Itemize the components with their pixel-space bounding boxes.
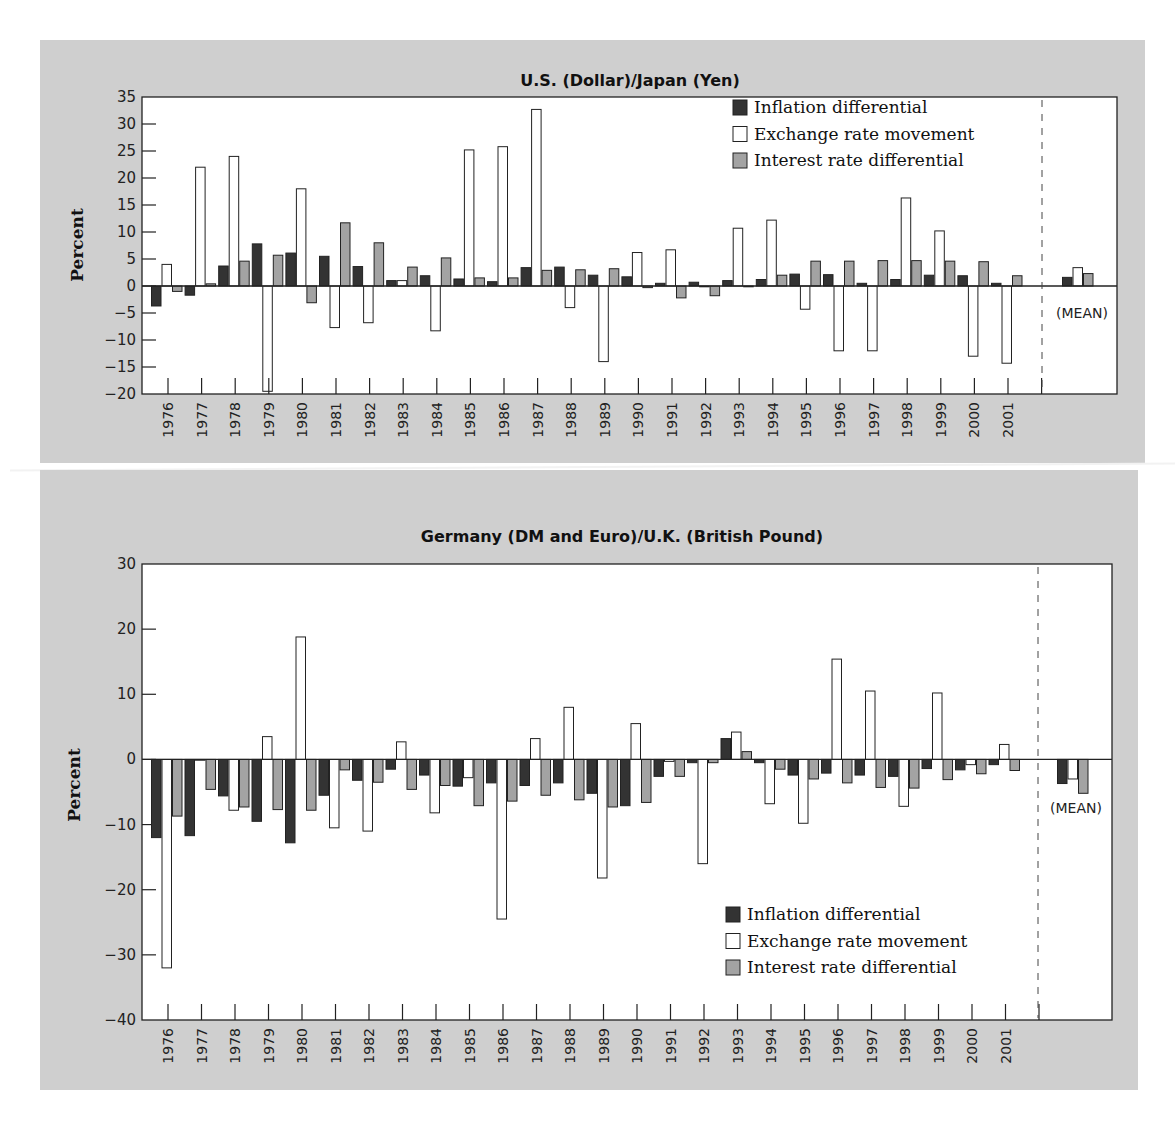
x-tick-label: 1984: [428, 1028, 444, 1064]
x-tick-label: 1996: [830, 1028, 846, 1064]
exchange-bar: [1073, 268, 1083, 286]
y-tick-label: 0: [126, 750, 136, 768]
exchange-bar: [464, 150, 474, 286]
interest-bar: [1084, 274, 1094, 286]
inflation-bar: [286, 253, 296, 286]
inflation-bar: [622, 277, 632, 286]
y-tick-label: −20: [104, 385, 136, 403]
exchange-bar: [698, 759, 708, 863]
inflation-bar: [286, 759, 296, 842]
exchange-bar: [229, 156, 239, 286]
x-tick-label: 1994: [765, 402, 781, 438]
chart-us-japan: U.S. (Dollar)/Japan (Yen) 35302520151050…: [67, 71, 1117, 438]
inflation-bar: [387, 281, 397, 286]
inflation-bar: [219, 759, 229, 795]
inflation-bar: [654, 759, 664, 776]
x-tick-label: 1983: [395, 1028, 411, 1064]
exchange-bar: [296, 637, 306, 759]
x-tick-label: 2000: [964, 1028, 980, 1064]
x-tick-label: 1988: [563, 402, 579, 438]
interest-bar: [273, 255, 283, 286]
inflation-bar: [723, 281, 733, 286]
exchange-bar: [565, 286, 575, 308]
inflation-bar: [924, 275, 934, 286]
inflation-bar: [790, 274, 800, 286]
exchange-bar: [632, 253, 642, 286]
x-tick-label: 1983: [395, 402, 411, 438]
exchange-legend-label: Exchange rate movement: [747, 931, 968, 951]
inflation-bar: [152, 759, 162, 837]
inflation-legend-swatch: [726, 907, 740, 922]
inflation-bar: [252, 759, 262, 821]
interest-bar: [675, 759, 685, 776]
x-tick-label: 1987: [530, 402, 546, 438]
inflation-bar: [386, 759, 396, 769]
chart-title: U.S. (Dollar)/Japan (Yen): [520, 71, 740, 90]
inflation-bar: [152, 286, 162, 306]
x-tick-label: 1977: [194, 402, 210, 438]
y-axis-label: Percent: [67, 208, 87, 282]
interest-bar: [912, 261, 922, 286]
inflation-bar: [353, 267, 363, 286]
exchange-bar: [330, 286, 340, 328]
interest-bar: [374, 759, 384, 782]
inflation-bar: [487, 759, 497, 782]
interest-legend-swatch: [726, 960, 740, 975]
y-tick-label: 15: [117, 196, 136, 214]
x-tick-label: 1976: [160, 1028, 176, 1064]
exchange-bar: [564, 707, 574, 759]
inflation-legend-swatch: [733, 100, 747, 115]
interest-bar: [642, 759, 652, 802]
x-tick-label: 1997: [866, 402, 882, 438]
x-tick-label: 1981: [328, 402, 344, 438]
x-tick-label: 2001: [998, 1028, 1014, 1064]
interest-bar: [509, 278, 519, 286]
mean-label: (MEAN): [1050, 800, 1102, 816]
interest-bar: [1079, 759, 1089, 793]
x-tick-label: 1985: [462, 1028, 478, 1064]
exchange-bar: [330, 759, 340, 827]
interest-bar: [441, 759, 451, 785]
inflation-bar: [588, 275, 598, 286]
x-tick-label: 1998: [897, 1028, 913, 1064]
y-tick-label: −10: [104, 331, 136, 349]
x-tick-label: 1992: [698, 402, 714, 438]
y-tick-label: −10: [104, 816, 136, 834]
exchange-bar: [196, 167, 206, 286]
inflation-bar: [922, 759, 932, 768]
inflation-bar: [1058, 759, 1068, 783]
inflation-bar: [185, 286, 195, 295]
inflation-bar: [1063, 277, 1073, 286]
x-tick-label: 1997: [864, 1028, 880, 1064]
exchange-bar: [397, 742, 407, 760]
x-tick-label: 1982: [362, 402, 378, 438]
inflation-bar: [958, 276, 968, 286]
chart-title: Germany (DM and Euro)/U.K. (British Poun…: [421, 527, 823, 546]
y-tick-label: −20: [104, 881, 136, 899]
exchange-bar: [162, 264, 172, 286]
x-tick-label: 1978: [227, 1028, 243, 1064]
interest-bar: [845, 261, 855, 286]
y-tick-label: 0: [126, 277, 136, 295]
x-tick-label: 1980: [294, 402, 310, 438]
inflation-bar: [420, 276, 430, 286]
exchange-bar: [767, 220, 777, 286]
x-tick-label: 1992: [696, 1028, 712, 1064]
inflation-bar: [521, 268, 531, 286]
x-tick-label: 1998: [899, 402, 915, 438]
x-tick-label: 1978: [227, 402, 243, 438]
interest-bar: [1013, 276, 1023, 286]
interest-bar: [742, 752, 752, 760]
x-tick-label: 1993: [731, 402, 747, 438]
inflation-bar: [319, 759, 329, 795]
x-tick-label: 1986: [495, 1028, 511, 1064]
interest-bar: [240, 759, 250, 807]
exchange-bar: [866, 691, 876, 759]
y-tick-label: 30: [117, 555, 136, 573]
interest-bar: [608, 759, 618, 807]
interest-bar: [408, 267, 418, 286]
inflation-bar: [520, 759, 530, 785]
exchange-bar: [834, 286, 844, 351]
interest-bar: [843, 759, 853, 782]
exchange-bar: [968, 286, 978, 356]
